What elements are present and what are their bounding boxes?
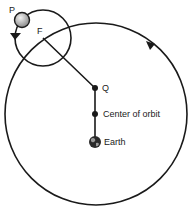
equant-point-icon	[92, 85, 98, 91]
center-point-icon	[92, 111, 98, 117]
label-earth: Earth	[104, 137, 126, 147]
planet-icon	[15, 13, 30, 28]
equant-line	[43, 38, 95, 142]
label-f: F	[37, 26, 43, 36]
deferent-direction-arrow-icon	[146, 41, 155, 50]
label-center-of-orbit: Center of orbit	[103, 109, 161, 119]
label-q: Q	[102, 83, 109, 93]
epicycle-direction-arrow-icon	[10, 33, 21, 40]
label-p: P	[9, 5, 15, 15]
epicycle-diagram: P F Q Center of orbit Earth	[0, 0, 190, 209]
earth-icon	[89, 136, 101, 148]
